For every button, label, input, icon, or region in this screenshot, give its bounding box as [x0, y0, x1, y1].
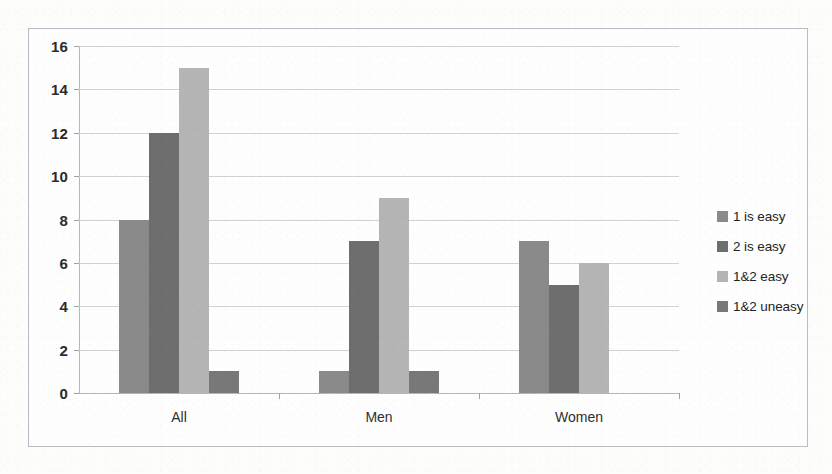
- legend-swatch-icon: [717, 271, 728, 282]
- y-axis-tick-mark: [74, 350, 79, 351]
- legend-label: 2 is easy: [733, 239, 785, 254]
- chart-frame: 1614121086420 AllMenWomen 1 is easy2 is …: [28, 28, 808, 447]
- gridline: [79, 46, 679, 47]
- legend-label: 1&2 easy: [733, 269, 789, 284]
- y-axis-tick-label: 2: [59, 341, 68, 358]
- y-axis-tick-label: 4: [59, 298, 68, 315]
- legend-label: 1&2 uneasy: [733, 299, 803, 314]
- y-axis-tick-label: 0: [59, 385, 68, 402]
- x-axis-tick-label-men: Men: [365, 409, 392, 425]
- x-axis-tick-mark: [679, 393, 680, 399]
- legend-item[interactable]: 2 is easy: [717, 231, 832, 261]
- legend-item[interactable]: 1&2 easy: [717, 261, 832, 291]
- y-axis-tick-label: 10: [51, 168, 68, 185]
- bar: [349, 241, 379, 393]
- y-axis-tick-label: 6: [59, 254, 68, 271]
- bar: [519, 241, 549, 393]
- legend-item[interactable]: 1&2 uneasy: [717, 291, 832, 321]
- bar: [549, 285, 579, 393]
- y-axis-tick-label: 14: [51, 81, 68, 98]
- legend-swatch-icon: [717, 301, 728, 312]
- legend-label: 1 is easy: [733, 209, 785, 224]
- legend-swatch-icon: [717, 241, 728, 252]
- plot-area: 1614121086420 AllMenWomen: [79, 46, 679, 393]
- x-axis-tick-label-all: All: [171, 409, 187, 425]
- x-axis-tick-mark: [279, 393, 280, 399]
- y-axis-tick-mark: [74, 89, 79, 90]
- legend-item[interactable]: 1 is easy: [717, 201, 832, 231]
- bar: [149, 133, 179, 393]
- gridline: [79, 89, 679, 90]
- bar: [319, 371, 349, 393]
- y-axis-tick-mark: [74, 46, 79, 47]
- y-axis-tick-label: 12: [51, 124, 68, 141]
- y-axis-tick-mark: [74, 306, 79, 307]
- bar: [579, 263, 609, 393]
- x-axis-tick-label-women: Women: [555, 409, 603, 425]
- bar: [379, 198, 409, 393]
- y-axis-tick-mark: [74, 220, 79, 221]
- bar: [179, 68, 209, 393]
- y-axis-tick-label: 16: [51, 38, 68, 55]
- x-axis-tick-mark: [479, 393, 480, 399]
- y-axis-tick-mark: [74, 263, 79, 264]
- y-axis-tick-mark: [74, 133, 79, 134]
- bar: [119, 220, 149, 394]
- legend-swatch-icon: [717, 211, 728, 222]
- bar: [209, 371, 239, 393]
- y-axis-tick-mark: [74, 176, 79, 177]
- y-axis-tick-mark: [74, 393, 79, 394]
- y-axis-tick-label: 8: [59, 211, 68, 228]
- bar: [409, 371, 439, 393]
- chart-legend: 1 is easy2 is easy1&2 easy1&2 uneasy: [717, 201, 832, 321]
- gridline: [79, 393, 679, 394]
